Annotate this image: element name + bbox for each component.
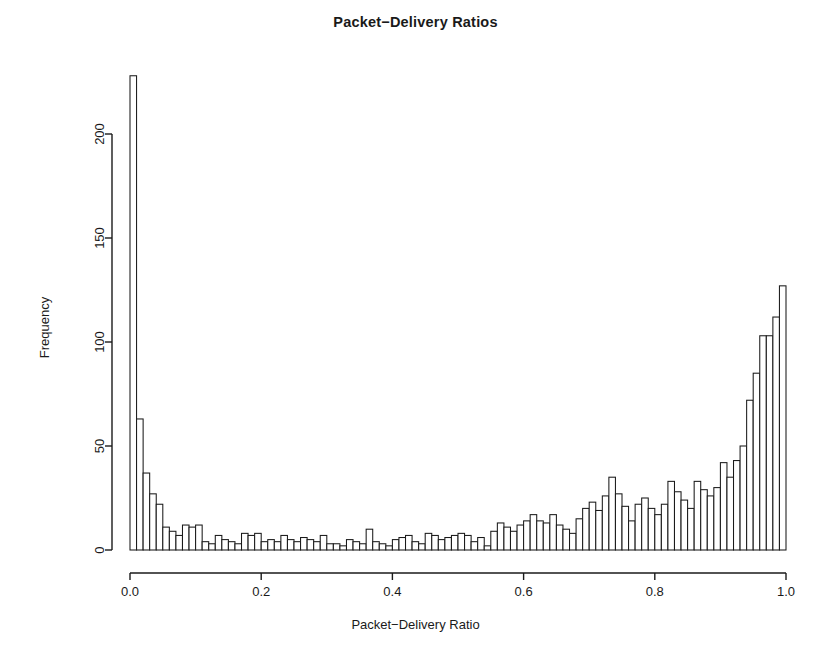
histogram-bar bbox=[333, 544, 340, 550]
histogram-bar bbox=[360, 544, 367, 550]
x-axis-tick-label: 0.4 bbox=[383, 584, 401, 599]
histogram-bar bbox=[668, 481, 675, 550]
histogram-bar bbox=[642, 498, 649, 550]
histogram-bar bbox=[701, 490, 708, 550]
histogram-bar bbox=[242, 533, 249, 550]
histogram-bar bbox=[543, 523, 550, 550]
histogram-bar bbox=[583, 508, 590, 550]
histogram-bar bbox=[412, 542, 419, 550]
histogram-bar bbox=[399, 538, 406, 550]
x-axis-tick-label: 1.0 bbox=[777, 584, 795, 599]
histogram-bar bbox=[451, 535, 458, 550]
y-axis-tick-label: 200 bbox=[92, 123, 107, 145]
histogram-bar bbox=[596, 510, 603, 550]
x-axis-tick-label: 0.6 bbox=[515, 584, 533, 599]
histogram-bar bbox=[196, 525, 203, 550]
histogram-bar bbox=[556, 525, 563, 550]
histogram-bar bbox=[438, 540, 445, 550]
histogram-bar bbox=[255, 533, 262, 550]
histogram-bar bbox=[445, 538, 452, 550]
histogram-bar bbox=[688, 508, 695, 550]
histogram-bar bbox=[753, 373, 760, 550]
histogram-bar bbox=[287, 540, 294, 550]
histogram-bar bbox=[202, 542, 209, 550]
histogram-bar bbox=[235, 544, 242, 550]
histogram-bar bbox=[248, 535, 255, 550]
histogram-bar bbox=[747, 400, 754, 550]
histogram-bar bbox=[609, 477, 616, 550]
histogram-bar bbox=[294, 542, 301, 550]
histogram-bar bbox=[760, 336, 767, 550]
histogram-bar bbox=[143, 473, 150, 550]
histogram-bar bbox=[497, 523, 504, 550]
histogram-bar bbox=[215, 535, 222, 550]
x-axis: 0.00.20.40.60.81.0 bbox=[121, 573, 795, 599]
histogram-bar bbox=[714, 488, 721, 550]
histogram-bar bbox=[386, 546, 393, 550]
histogram-bar bbox=[406, 535, 413, 550]
histogram-bar bbox=[674, 492, 681, 550]
histogram-bar bbox=[150, 494, 157, 550]
histogram-bar bbox=[373, 542, 380, 550]
histogram-bar bbox=[182, 525, 189, 550]
histogram-bar bbox=[478, 538, 485, 550]
histogram-bar bbox=[432, 535, 439, 550]
histogram-bar bbox=[740, 446, 747, 550]
histogram-bar bbox=[655, 515, 662, 550]
histogram-bar bbox=[563, 529, 570, 550]
histogram-bar bbox=[222, 540, 229, 550]
x-axis-tick-label: 0.8 bbox=[646, 584, 664, 599]
histogram-bar bbox=[274, 542, 281, 550]
histogram-bar bbox=[694, 481, 701, 550]
histogram-bar bbox=[707, 496, 714, 550]
x-axis-label: Packet−Delivery Ratio bbox=[0, 617, 831, 632]
histogram-bar bbox=[228, 542, 235, 550]
y-axis-tick-label: 150 bbox=[92, 227, 107, 249]
histogram-bar bbox=[537, 521, 544, 550]
x-axis-tick-label: 0.0 bbox=[121, 584, 139, 599]
histogram-bar bbox=[301, 538, 308, 550]
histogram-bar bbox=[602, 496, 609, 550]
histogram-bar bbox=[261, 542, 268, 550]
x-axis-tick-label: 0.2 bbox=[252, 584, 270, 599]
histogram-bar bbox=[307, 540, 314, 550]
histogram-bar bbox=[510, 531, 517, 550]
histogram-plot: 050100150200 0.00.20.40.60.81.0 bbox=[0, 0, 831, 665]
histogram-bar bbox=[137, 419, 144, 550]
histogram-bar bbox=[648, 508, 655, 550]
histogram-bar bbox=[491, 531, 498, 550]
histogram-bar bbox=[425, 533, 432, 550]
histogram-bar bbox=[465, 535, 472, 550]
histogram-bar bbox=[484, 546, 491, 550]
chart-figure: Packet−Delivery Ratios Frequency 0501001… bbox=[0, 0, 831, 665]
histogram-bar bbox=[570, 533, 577, 550]
histogram-bar bbox=[720, 463, 727, 550]
histogram-bar bbox=[419, 544, 426, 550]
histogram-bar bbox=[327, 544, 334, 550]
histogram-bar bbox=[779, 286, 786, 550]
histogram-bar bbox=[681, 500, 688, 550]
histogram-bar bbox=[320, 535, 327, 550]
histogram-bar bbox=[766, 336, 773, 550]
histogram-bar bbox=[629, 521, 636, 550]
histogram-bar bbox=[504, 527, 511, 550]
histogram-bar bbox=[550, 515, 557, 550]
histogram-bar bbox=[727, 477, 734, 550]
histogram-bar bbox=[524, 521, 531, 550]
histogram-bar bbox=[163, 527, 170, 550]
y-axis-tick-label: 0 bbox=[92, 546, 107, 553]
histogram-bar bbox=[379, 544, 386, 550]
histogram-bar bbox=[176, 535, 183, 550]
histogram-bar bbox=[615, 494, 622, 550]
histogram-bar bbox=[471, 542, 478, 550]
histogram-bar bbox=[314, 542, 321, 550]
histogram-bar bbox=[517, 525, 524, 550]
histogram-bar bbox=[353, 542, 360, 550]
histogram-bar bbox=[773, 317, 780, 550]
histogram-bar bbox=[458, 533, 465, 550]
histogram-bar bbox=[734, 461, 741, 550]
y-axis-tick-label: 100 bbox=[92, 331, 107, 353]
histogram-bar bbox=[209, 544, 216, 550]
histogram-bar bbox=[392, 540, 399, 550]
histogram-bar bbox=[622, 506, 629, 550]
